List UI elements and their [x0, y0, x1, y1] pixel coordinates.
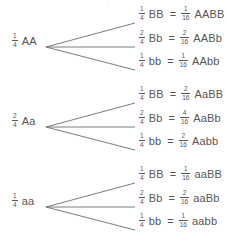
- result-genotype-label: aaBb: [193, 192, 220, 204]
- forked-line-diagram: · 14AA14BB=116AABB24Bb=216AABb14bb=116AA…: [0, 0, 229, 239]
- result-fraction: 216: [181, 86, 190, 101]
- result-fraction: 116: [179, 53, 188, 68]
- parent-genotype-label: Aa: [22, 115, 36, 127]
- result-fraction-denominator: 16: [181, 93, 190, 101]
- branch-genotype-label: bb: [149, 55, 162, 67]
- branch-fraction-denominator: 4: [139, 93, 145, 101]
- result-fraction-denominator: 16: [180, 37, 189, 45]
- result-fraction-numerator: 2: [181, 133, 187, 140]
- result-fraction-denominator: 16: [180, 117, 189, 125]
- equals-sign: =: [167, 55, 173, 67]
- genotype-group: 14aa14BB=116aaBB24Bb=216aaBb14bb=116aabb: [0, 164, 229, 239]
- equals-sign: =: [168, 192, 174, 204]
- branch-line: [46, 207, 135, 230]
- branch-fraction-numerator: 2: [139, 30, 145, 37]
- result-fraction-numerator: 2: [182, 30, 188, 37]
- parent-genotype: 24Aa: [12, 112, 35, 130]
- result-fraction: 116: [179, 213, 188, 228]
- result-fraction-denominator: 16: [180, 197, 189, 205]
- result-fraction: 216: [180, 30, 189, 45]
- branch-fraction-denominator: 4: [139, 117, 145, 125]
- result-fraction-denominator: 16: [181, 13, 190, 21]
- parent-fraction: 14: [12, 33, 18, 48]
- branch-fraction-numerator: 1: [139, 6, 145, 13]
- genotype-group: 14AA14BB=116AABB24Bb=216AABb14bb=116AAbb: [0, 4, 229, 84]
- branch-row: 14BB=116AABB: [139, 6, 225, 22]
- branch-fraction-denominator: 4: [139, 220, 145, 228]
- branch-genotype-label: bb: [149, 135, 162, 147]
- branch-row: 24Bb=416AaBb: [139, 110, 221, 126]
- genotype-group: 24Aa14BB=216AaBB24Bb=416AaBb14bb=216Aabb: [0, 84, 229, 164]
- result-fraction: 416: [180, 110, 189, 125]
- result-fraction-denominator: 16: [179, 220, 188, 228]
- result-fraction: 216: [180, 190, 189, 205]
- branch-row: 14BB=216AaBB: [139, 86, 223, 102]
- parent-fraction: 14: [12, 193, 18, 208]
- branch-genotype-label: BB: [149, 88, 164, 100]
- parent-fraction-numerator: 1: [12, 193, 18, 200]
- branch-fraction-numerator: 1: [139, 86, 145, 93]
- result-fraction-numerator: 1: [183, 166, 189, 173]
- parent-fraction-numerator: 1: [12, 33, 18, 40]
- parent-genotype-label: AA: [22, 35, 37, 47]
- branch-fraction-numerator: 1: [139, 213, 145, 220]
- branch-row: 24Bb=216aaBb: [139, 190, 220, 206]
- branch-fraction: 14: [139, 6, 145, 21]
- branch-fraction: 14: [139, 166, 145, 181]
- result-fraction-numerator: 2: [182, 190, 188, 197]
- result-fraction-denominator: 16: [179, 60, 188, 68]
- branch-fraction-numerator: 1: [139, 133, 145, 140]
- result-fraction-denominator: 16: [179, 140, 188, 148]
- branch-fraction-denominator: 4: [139, 13, 145, 21]
- parent-fraction-denominator: 4: [12, 200, 18, 208]
- result-genotype-label: AABb: [193, 32, 222, 44]
- branch-line: [46, 23, 135, 47]
- branch-fraction: 14: [139, 53, 145, 68]
- result-genotype-label: AaBB: [194, 88, 223, 100]
- branch-fan: [46, 14, 136, 74]
- equals-sign: =: [167, 215, 173, 227]
- branch-genotype-label: BB: [149, 8, 164, 20]
- equals-sign: =: [167, 135, 173, 147]
- parent-genotype-label: aa: [22, 195, 35, 207]
- parent-fraction-denominator: 4: [12, 40, 18, 48]
- result-fraction: 116: [181, 6, 190, 21]
- parent-fraction: 24: [12, 113, 18, 128]
- branch-fraction-denominator: 4: [139, 173, 145, 181]
- branch-line: [46, 47, 135, 70]
- branch-fraction-numerator: 2: [139, 110, 145, 117]
- parent-genotype: 14aa: [12, 192, 34, 210]
- branch-fraction-numerator: 1: [139, 166, 145, 173]
- result-fraction-denominator: 16: [181, 173, 190, 181]
- parent-fraction-denominator: 4: [12, 120, 18, 128]
- branch-genotype-label: Bb: [149, 112, 163, 124]
- equals-sign: =: [168, 112, 174, 124]
- branch-line: [46, 127, 135, 150]
- result-genotype-label: AABB: [194, 8, 224, 20]
- result-genotype-label: AaBb: [193, 112, 221, 124]
- branch-line: [46, 183, 135, 207]
- parent-fraction-numerator: 2: [12, 113, 18, 120]
- result-fraction-numerator: 1: [181, 213, 187, 220]
- branch-fraction: 14: [139, 86, 145, 101]
- equals-sign: =: [168, 32, 174, 44]
- result-fraction-numerator: 4: [182, 110, 188, 117]
- branch-fraction-numerator: 1: [139, 53, 145, 60]
- result-genotype-label: AAbb: [192, 55, 220, 67]
- branch-row: 14bb=216Aabb: [139, 133, 218, 149]
- branch-fraction-denominator: 4: [139, 60, 145, 68]
- branch-fraction: 14: [139, 133, 145, 148]
- branch-fraction-denominator: 4: [139, 37, 145, 45]
- branch-row: 14bb=116AAbb: [139, 53, 220, 69]
- result-fraction: 116: [181, 166, 190, 181]
- result-genotype-label: aaBB: [194, 168, 222, 180]
- branch-fraction: 24: [139, 30, 145, 45]
- branch-fraction: 14: [139, 213, 145, 228]
- branch-fraction-numerator: 2: [139, 190, 145, 197]
- branch-genotype-label: BB: [149, 168, 164, 180]
- branch-fan: [46, 94, 136, 154]
- branch-fraction-denominator: 4: [139, 140, 145, 148]
- branch-fan: [46, 174, 136, 234]
- branch-fraction: 24: [139, 110, 145, 125]
- result-genotype-label: Aabb: [192, 135, 219, 147]
